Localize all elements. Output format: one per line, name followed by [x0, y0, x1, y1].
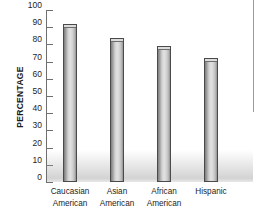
plot-area: [46, 10, 253, 182]
y-tick-label: 30: [14, 125, 42, 126]
y-tick-label: 100: [14, 5, 42, 6]
y-tick-label: 50: [14, 91, 42, 92]
bar: [204, 58, 218, 182]
bar-top-cap: [64, 25, 76, 28]
bar-chart: PERCENTAGE 0102030405060708090100 Caucas…: [0, 0, 259, 219]
y-tick-label: 70: [14, 57, 42, 58]
y-tick-label: 90: [14, 22, 42, 23]
y-tick-label: 60: [14, 74, 42, 75]
bar-top-cap: [111, 39, 123, 42]
bar-top-cap: [205, 59, 217, 62]
y-tick-label: 10: [14, 160, 42, 161]
y-tick-label: 0: [14, 177, 42, 178]
x-axis-label: Hispanic: [174, 186, 248, 198]
bar-top-cap: [158, 47, 170, 50]
y-tick-label: 80: [14, 39, 42, 40]
y-tick-label: 20: [14, 143, 42, 144]
bar: [110, 38, 124, 182]
x-axis-label-line: Hispanic: [174, 186, 248, 198]
bar: [63, 24, 77, 182]
x-axis-label-line: American: [127, 198, 201, 210]
bar: [157, 46, 171, 182]
right-edge-rule: [253, 0, 254, 112]
y-tick-label: 40: [14, 108, 42, 109]
y-tick-mark: [47, 182, 53, 183]
y-axis-title: PERCENTAGE: [15, 37, 25, 157]
